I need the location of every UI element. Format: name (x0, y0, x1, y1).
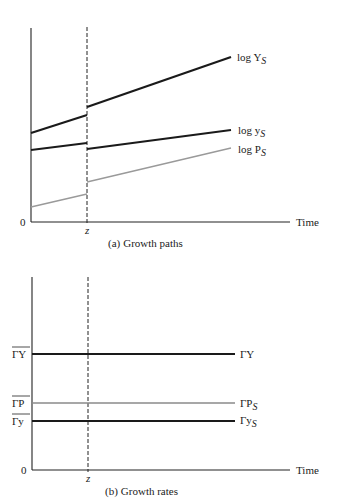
label-GY: ΓY (240, 348, 254, 360)
panel-growth-rates: ΓY ΓP Γy ΓY ΓPS ΓyS 0 Time z (b)Growth r… (12, 277, 319, 498)
tick-label-GY: ΓY (12, 348, 26, 360)
series-logy-pre (31, 143, 87, 150)
label-Gy: ΓyS (240, 414, 257, 429)
series-logP-post (87, 148, 231, 182)
panel-growth-paths: log YS log yS log PS 0 Time z (a)Growth … (20, 27, 319, 250)
growth-figure: log YS log yS log PS 0 Time z (a)Growth … (0, 0, 340, 498)
tick-label-GP: ΓP (12, 397, 24, 409)
origin-label: 0 (21, 464, 27, 476)
series-logP-pre (31, 194, 87, 207)
origin-label: 0 (20, 216, 26, 228)
x-axis-label: Time (296, 216, 319, 228)
tick-label-Gy: Γy (12, 415, 24, 427)
series-logy-post (87, 130, 231, 149)
series-logY-post (87, 57, 231, 107)
x-axis-label: Time (296, 464, 319, 476)
label-logY: log YS (237, 51, 266, 66)
caption-a: (a)Growth paths (108, 237, 183, 250)
break-label-z: z (84, 224, 90, 236)
break-label-z: z (85, 472, 91, 484)
label-logy: log yS (238, 124, 265, 139)
caption-b: (b)Growth rates (105, 485, 178, 498)
series-logY-pre (31, 115, 87, 133)
label-GP: ΓPS (240, 397, 257, 412)
label-logP: log PS (238, 143, 266, 158)
